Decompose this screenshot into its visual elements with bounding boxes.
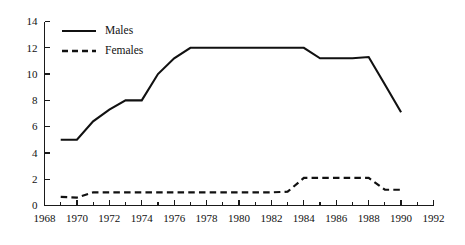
y-tick-label: 2 [32,173,38,185]
chart-legend: MalesFemales [62,24,144,56]
x-tick-label: 1984 [293,212,316,224]
x-tick-label: 1990 [390,212,413,224]
x-tick-label: 1992 [423,212,445,224]
y-tick-label: 4 [32,147,38,159]
chart-plot-area: 02468101214 1968197019721974197619781980… [0,0,465,245]
x-tick-label: 1974 [131,212,154,224]
x-tick-label: 1968 [34,212,57,224]
x-axis-ticks [45,200,434,206]
x-tick-label: 1978 [196,212,219,224]
legend-label-females: Females [105,44,144,56]
x-tick-label: 1988 [358,212,381,224]
y-tick-label: 6 [32,120,38,132]
x-tick-label: 1986 [325,212,348,224]
y-tick-label: 8 [32,94,38,106]
series-line-males [61,48,401,140]
y-tick-label: 10 [27,68,39,80]
x-tick-label: 1976 [163,212,186,224]
line-chart: 02468101214 1968197019721974197619781980… [0,0,465,245]
series-line-females [61,178,401,198]
y-axis-tick-labels: 02468101214 [27,15,39,211]
x-tick-label: 1970 [66,212,89,224]
x-tick-label: 1972 [98,212,120,224]
x-tick-label: 1982 [260,212,282,224]
legend-label-males: Males [105,24,134,36]
x-tick-label: 1980 [228,212,251,224]
y-tick-label: 14 [27,15,39,27]
y-tick-label: 12 [27,42,38,54]
y-tick-label: 0 [32,199,38,211]
x-axis-tick-labels: 1968197019721974197619781980198219841986… [34,212,445,224]
chart-series [61,48,401,198]
